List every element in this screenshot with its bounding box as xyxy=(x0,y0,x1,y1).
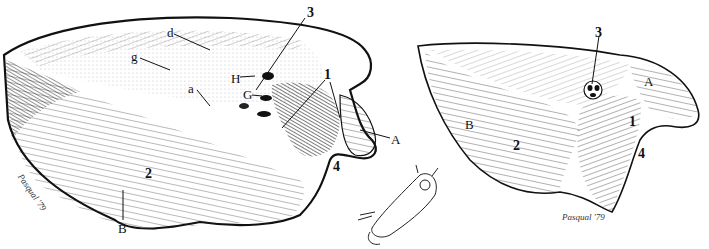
label-1-left: 1 xyxy=(324,68,331,82)
inset-whole-animal-sketch xyxy=(358,165,438,244)
label-2-right: 2 xyxy=(513,139,520,153)
label-1-right: 1 xyxy=(629,115,636,129)
left-specimen xyxy=(4,17,390,230)
label-g: g xyxy=(131,50,138,63)
label-3-left: 3 xyxy=(307,6,314,20)
label-G: G xyxy=(243,88,252,101)
label-a: a xyxy=(188,82,194,95)
label-4-right: 4 xyxy=(638,147,645,161)
label-A-right: A xyxy=(644,75,653,88)
label-A-left: A xyxy=(391,133,400,146)
label-3-right: 3 xyxy=(595,26,602,40)
label-B-left: B xyxy=(118,222,127,235)
right-specimen xyxy=(418,36,699,212)
label-2-left: 2 xyxy=(145,167,152,181)
label-4-left: 4 xyxy=(333,160,340,174)
label-d: d xyxy=(167,26,174,39)
label-H: H xyxy=(231,72,240,85)
signature-right: Pasqual '79 xyxy=(562,212,605,222)
label-B-right: B xyxy=(465,118,474,131)
